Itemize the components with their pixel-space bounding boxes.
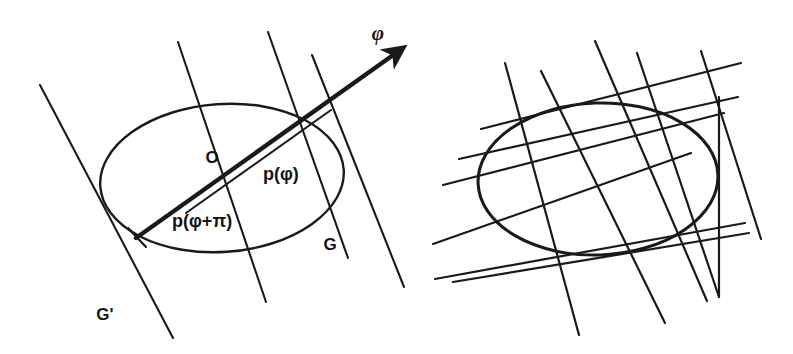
geometry-figure: φ O p(φ) p(φ+π) G G' (0, 0, 793, 354)
label-phi: φ (372, 21, 384, 45)
label-tangent-g-prime: G' (96, 305, 113, 324)
label-p-phi-plus-pi: p(φ+π) (172, 211, 232, 231)
label-p-phi: p(φ) (263, 164, 299, 184)
label-origin: O (205, 148, 218, 167)
label-tangent-g: G (323, 235, 336, 254)
figure-root: φ O p(φ) p(φ+π) G G' (0, 0, 793, 354)
